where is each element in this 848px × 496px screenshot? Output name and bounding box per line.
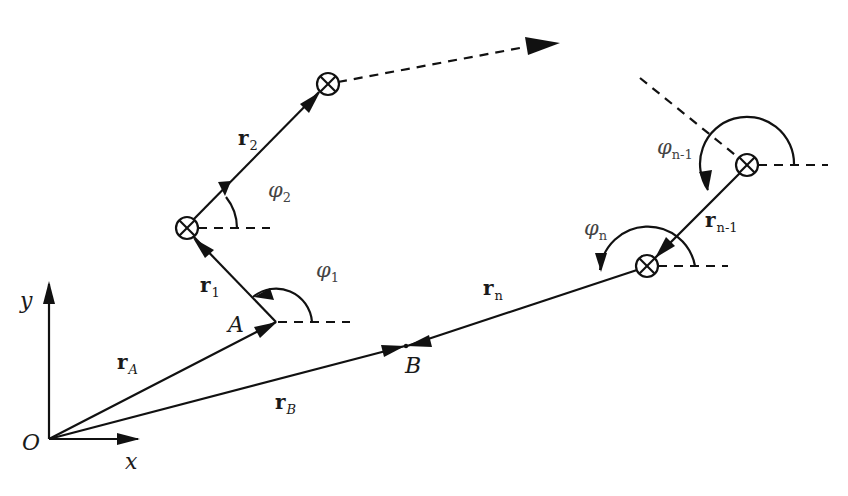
vector-r2 [193,92,319,220]
diagram-svg [0,0,848,496]
x-axis-label: x [125,451,137,473]
vector-rB-label: rB [275,392,296,412]
angle-phi1-label: φ1 [316,260,339,281]
vector-r2-sub: 2 [250,138,258,153]
rB-arrowhead [381,345,405,357]
angle-phi1-sub: 1 [331,270,339,285]
angle-arrow-phin [595,253,607,272]
joint-n-1 [736,154,758,176]
vector-rA-main: r [117,350,128,374]
angle-phi2-main: φ [268,178,283,202]
vector-r2-label: r2 [238,128,258,148]
angle-phin-1-main: φ [657,135,672,159]
x-axis-arrowhead [117,433,140,445]
continuation-line-joint-2 [338,48,520,82]
vector-rB-sub: B [287,402,297,417]
vector-r1-sub: 1 [212,285,220,300]
rA-arrowhead [254,322,277,338]
continuation-arrowhead [525,37,560,55]
vector-r2-main: r [238,126,249,150]
joint-2 [317,73,339,95]
angle-phi1-main: φ [316,258,331,282]
vector-rA-sub: A [129,362,138,377]
vector-r1-main: r [200,273,211,297]
angle-phi2-label: φ2 [268,180,291,201]
joint-n [636,255,658,277]
vector-rn-sub: n [495,288,503,303]
vector-rB [49,346,405,439]
vector-rn-1-main: r [705,208,716,232]
vector-rA [49,322,276,439]
point-A-label: A [228,314,244,336]
angle-phin-main: φ [584,216,599,240]
angle-phin-sub: n [599,228,607,243]
y-axis-label: y [20,290,32,312]
angle-arc-phi2 [226,197,237,228]
joint-1 [176,217,198,239]
rn-arrowhead [407,335,432,347]
vector-r1-label: r1 [200,275,220,295]
angle-phi2-sub: 2 [283,190,291,205]
vector-rB-main: r [275,390,286,414]
vector-rn-1-sub: n-1 [717,220,738,235]
vector-rn-1-label: rn-1 [705,210,738,230]
vector-rn-main: r [483,276,494,300]
angle-phin-1-sub: n-1 [672,147,693,162]
angle-phin-1-label: φn-1 [657,137,693,158]
y-axis-arrowhead [43,281,55,304]
diagram-canvas: y x O A B rA rB r1 r2 rn-1 rn φ1 φ2 φn-1… [0,0,848,496]
r2-arrowhead [300,92,320,113]
origin-label: O [22,432,40,454]
point-B-dot [404,344,408,348]
angle-phin-label: φn [584,218,607,239]
vector-rn [407,270,637,346]
point-B-label: B [405,355,421,377]
vector-rn-label: rn [483,278,503,298]
vector-rA-label: rA [117,352,138,372]
